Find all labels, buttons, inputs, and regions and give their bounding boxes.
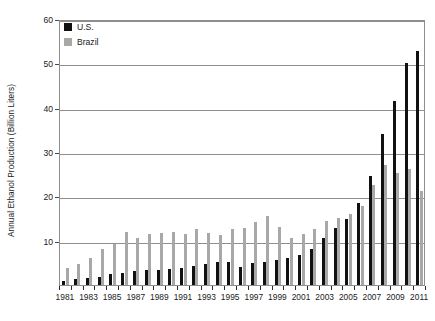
- bar-group: [133, 21, 141, 285]
- bar-brazil-1986: [125, 232, 128, 285]
- y-tick-label-50: 50: [15, 59, 59, 69]
- x-tick-mark: [283, 286, 284, 290]
- legend-swatch-icon: [64, 23, 72, 31]
- bar-group: [405, 21, 413, 285]
- bar-group: [275, 21, 283, 285]
- x-tick-label-1985: 1985: [103, 292, 122, 302]
- bar-brazil-1990: [172, 232, 175, 285]
- bar-brazil-1994: [219, 235, 222, 285]
- bar-group: [62, 21, 70, 285]
- x-tick-label-1997: 1997: [244, 292, 263, 302]
- bar-brazil-1982: [77, 264, 80, 285]
- bar-group: [357, 21, 365, 285]
- y-tick-label-20: 20: [15, 192, 59, 202]
- x-tick-mark: [272, 286, 273, 290]
- bar-group: [310, 21, 318, 285]
- bar-brazil-1995: [231, 229, 234, 285]
- x-tick-mark: [295, 286, 296, 290]
- bar-group: [145, 21, 153, 285]
- x-tick-mark: [118, 286, 119, 290]
- x-tick-mark: [177, 286, 178, 290]
- bar-brazil-1989: [160, 233, 163, 285]
- x-tick-label-2009: 2009: [386, 292, 405, 302]
- bar-brazil-2002: [313, 229, 316, 285]
- bar-brazil-2009: [396, 173, 399, 285]
- bar-group: [393, 21, 401, 285]
- bar-brazil-1992: [195, 229, 198, 285]
- bar-group: [345, 21, 353, 285]
- x-tick-label-1991: 1991: [174, 292, 193, 302]
- x-tick-label-1981: 1981: [56, 292, 75, 302]
- bar-group: [74, 21, 82, 285]
- bar-group: [98, 21, 106, 285]
- bar-brazil-2011: [420, 191, 423, 285]
- bar-brazil-1997: [254, 222, 257, 285]
- x-tick-mark: [106, 286, 107, 290]
- x-tick-mark: [142, 286, 143, 290]
- legend-label: U.S.: [77, 22, 94, 32]
- x-tick-label-1987: 1987: [126, 292, 145, 302]
- x-tick-label-2007: 2007: [363, 292, 382, 302]
- bar-brazil-1983: [89, 258, 92, 285]
- chart-legend: U.S.Brazil: [64, 22, 144, 52]
- bar-group: [416, 21, 424, 285]
- x-tick-mark: [59, 286, 60, 290]
- x-tick-mark: [83, 286, 84, 290]
- x-tick-mark: [71, 286, 72, 290]
- bar-group: [263, 21, 271, 285]
- bar-brazil-1998: [266, 216, 269, 285]
- x-tick-mark: [366, 286, 367, 290]
- bar-brazil-2007: [372, 185, 375, 285]
- x-tick-mark: [201, 286, 202, 290]
- x-tick-mark: [331, 286, 332, 290]
- bar-brazil-1987: [136, 238, 139, 285]
- bar-brazil-1988: [148, 234, 151, 285]
- bar-group: [322, 21, 330, 285]
- bar-brazil-1996: [243, 228, 246, 285]
- x-tick-mark: [319, 286, 320, 290]
- bar-group: [334, 21, 342, 285]
- y-tick-label-10: 10: [15, 237, 59, 247]
- x-tick-mark: [260, 286, 261, 290]
- x-tick-mark: [248, 286, 249, 290]
- bar-group: [227, 21, 235, 285]
- y-tick-label-60: 60: [15, 15, 59, 25]
- x-tick-mark: [354, 286, 355, 290]
- x-axis-tick-labels: 1981198319851987198919911993199519971999…: [59, 292, 425, 308]
- bar-brazil-2010: [408, 169, 411, 285]
- x-tick-mark: [189, 286, 190, 290]
- x-tick-mark: [94, 286, 95, 290]
- bar-group: [251, 21, 259, 285]
- x-tick-mark: [236, 286, 237, 290]
- bar-group: [286, 21, 294, 285]
- ethanol-production-bar-chart: Annual Ethanol Production (Billion Liter…: [0, 0, 435, 321]
- bar-group: [192, 21, 200, 285]
- x-tick-mark: [401, 286, 402, 290]
- x-tick-mark: [378, 286, 379, 290]
- legend-label: Brazil: [77, 37, 99, 47]
- x-tick-mark: [153, 286, 154, 290]
- bar-group: [298, 21, 306, 285]
- x-tick-mark: [425, 286, 426, 290]
- x-tick-mark: [307, 286, 308, 290]
- bar-brazil-2003: [325, 221, 328, 285]
- x-tick-mark: [342, 286, 343, 290]
- x-tick-label-1993: 1993: [197, 292, 216, 302]
- x-axis-ticks: [59, 286, 425, 291]
- x-tick-label-2011: 2011: [410, 292, 428, 302]
- bar-brazil-2004: [337, 218, 340, 285]
- x-tick-mark: [130, 286, 131, 290]
- bar-brazil-2006: [361, 206, 364, 285]
- bar-brazil-2001: [302, 234, 305, 285]
- bar-group: [86, 21, 94, 285]
- bar-group: [204, 21, 212, 285]
- x-tick-label-1983: 1983: [79, 292, 98, 302]
- legend-item-brazil: Brazil: [64, 37, 144, 47]
- bar-brazil-1984: [101, 249, 104, 285]
- bar-brazil-2008: [384, 165, 387, 285]
- bar-group: [216, 21, 224, 285]
- x-tick-label-1995: 1995: [221, 292, 240, 302]
- bar-brazil-1999: [278, 227, 281, 285]
- y-tick-label-30: 30: [15, 148, 59, 158]
- x-tick-mark: [165, 286, 166, 290]
